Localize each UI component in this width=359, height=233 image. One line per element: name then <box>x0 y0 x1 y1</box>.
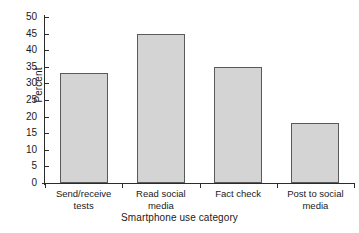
y-tick-label: 35 <box>26 60 37 74</box>
y-tick-label: 25 <box>26 93 37 107</box>
category-label: Read social media <box>122 188 199 211</box>
x-axis-line <box>42 183 355 184</box>
bar <box>214 67 262 183</box>
y-tick-mark <box>44 133 49 134</box>
plot-area: 05101520253035404550 <box>45 17 354 183</box>
category-label: Send/receive tests <box>45 188 122 211</box>
y-tick-mark <box>44 83 49 84</box>
y-tick-label: 50 <box>26 10 37 24</box>
category-label: Post to social media <box>277 188 354 211</box>
y-tick-mark <box>44 67 49 68</box>
y-tick-label: 0 <box>31 176 37 190</box>
x-axis-label: Smartphone use category <box>0 212 359 223</box>
bar <box>60 73 108 183</box>
y-tick-mark <box>44 17 49 18</box>
bar <box>137 34 185 183</box>
x-tick-mark <box>354 183 355 188</box>
y-tick-label: 20 <box>26 110 37 124</box>
y-tick-label: 40 <box>26 43 37 57</box>
y-tick-label: 10 <box>26 143 37 157</box>
y-tick-label: 15 <box>26 126 37 140</box>
y-tick-label: 30 <box>26 76 37 90</box>
y-tick-label: 5 <box>31 159 37 173</box>
y-tick-mark <box>44 117 49 118</box>
bar-chart-figure: Percent 05101520253035404550 Send/receiv… <box>0 0 359 233</box>
y-tick-mark <box>44 34 49 35</box>
y-tick-mark <box>44 50 49 51</box>
y-tick-mark <box>44 100 49 101</box>
bar <box>291 123 339 183</box>
y-tick-mark <box>44 150 49 151</box>
category-label: Fact check <box>200 188 277 200</box>
y-tick-mark <box>44 166 49 167</box>
y-tick-label: 45 <box>26 27 37 41</box>
